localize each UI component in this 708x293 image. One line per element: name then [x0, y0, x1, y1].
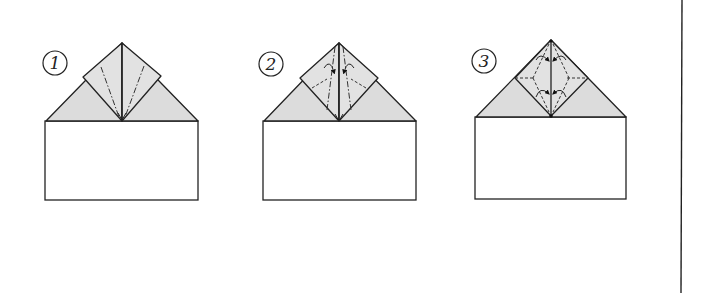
- paper-body: [263, 121, 416, 200]
- page-divider: [681, 0, 682, 293]
- origami-diagram: 1 2 3: [0, 0, 708, 293]
- step-1-label: 1: [43, 51, 67, 75]
- step-3-label: 3: [472, 49, 496, 73]
- svg-text:2: 2: [265, 54, 277, 74]
- svg-text:1: 1: [50, 53, 61, 73]
- paper-body: [45, 121, 198, 200]
- center-point: [549, 114, 553, 118]
- paper-body: [475, 117, 626, 199]
- step-2-label: 2: [259, 52, 283, 76]
- step-1-figure: 1: [43, 43, 198, 200]
- step-2-figure: 2: [259, 43, 416, 200]
- step-3-figure: 3: [472, 39, 626, 199]
- apex-point: [549, 39, 552, 42]
- svg-text:3: 3: [479, 51, 490, 71]
